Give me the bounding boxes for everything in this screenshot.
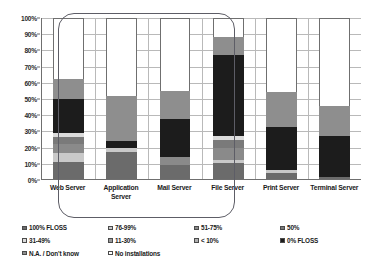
- bar-segment[interactable]: [266, 18, 297, 92]
- bar-segment[interactable]: [319, 177, 350, 179]
- y-axis-tick-mark: [37, 131, 40, 132]
- legend-swatch-icon: [108, 238, 113, 243]
- y-axis-tick-mark: [37, 66, 40, 67]
- legend-item[interactable]: N.A. / Don't know: [22, 247, 108, 259]
- bar-segment[interactable]: [319, 136, 350, 177]
- y-axis-tick-mark: [37, 115, 40, 116]
- bar-segment[interactable]: [213, 148, 244, 159]
- legend-swatch-icon: [22, 251, 27, 256]
- bar-segment[interactable]: [160, 165, 191, 179]
- x-axis: Web ServerApplication ServerMail ServerF…: [41, 182, 361, 210]
- legend-item[interactable]: No installations: [108, 247, 194, 259]
- legend-item-label: No installations: [115, 250, 160, 257]
- stacked-bar[interactable]: [319, 18, 350, 179]
- bar-segment[interactable]: [213, 140, 244, 148]
- bar-slot: [42, 18, 95, 179]
- legend-item-label: 0% FLOSS: [287, 237, 318, 244]
- legend-item-label: 51-75%: [201, 224, 222, 231]
- y-axis-tick-mark: [37, 99, 40, 100]
- legend-item-label: < 10%: [201, 237, 219, 244]
- legend-swatch-icon: [108, 251, 113, 256]
- y-axis-tick-label: 90%: [24, 31, 37, 38]
- x-axis-tick-label: Mail Server: [148, 182, 201, 210]
- x-axis-tick-label: Application Server: [94, 182, 147, 210]
- bar-segment[interactable]: [53, 153, 84, 162]
- y-axis-tick-label: 50%: [24, 96, 37, 103]
- bar-segment[interactable]: [266, 92, 297, 127]
- legend-item-label: 100% FLOSS: [29, 224, 67, 231]
- bar-segment[interactable]: [53, 162, 84, 179]
- legend-item-label: 50%: [287, 224, 299, 231]
- stacked-bar[interactable]: [160, 18, 191, 179]
- stacked-bar[interactable]: [106, 18, 137, 179]
- bar-slot: [202, 18, 255, 179]
- bar-segment[interactable]: [53, 99, 84, 134]
- bar-segment[interactable]: [106, 96, 137, 141]
- y-axis-tick-mark: [37, 50, 40, 51]
- chart-legend: 100% FLOSS76-99%51-75%50%31-49%11-30%< 1…: [22, 222, 366, 260]
- stacked-bar[interactable]: [213, 18, 244, 179]
- bar-segment[interactable]: [160, 91, 191, 118]
- bar-segment[interactable]: [53, 137, 84, 144]
- legend-swatch-icon: [22, 226, 27, 231]
- bar-segment[interactable]: [266, 127, 297, 170]
- legend-item[interactable]: 50%: [280, 222, 366, 234]
- plot-area: 0%10%20%30%40%50%60%70%80%90%100% Web Se…: [0, 0, 370, 200]
- legend-item[interactable]: < 10%: [194, 235, 280, 247]
- plot-box: [41, 18, 361, 180]
- legend-item-label: N.A. / Don't know: [29, 250, 79, 257]
- bar-segment[interactable]: [319, 106, 350, 137]
- bar-segment[interactable]: [160, 18, 191, 91]
- legend-item[interactable]: 76-99%: [108, 222, 194, 234]
- y-axis-tick-mark: [37, 180, 40, 181]
- legend-swatch-icon: [280, 226, 285, 231]
- legend-item[interactable]: 0% FLOSS: [280, 235, 366, 247]
- bar-segment[interactable]: [213, 163, 244, 179]
- y-axis-tick-mark: [37, 147, 40, 148]
- stacked-bar-chart: 0%10%20%30%40%50%60%70%80%90%100% Web Se…: [0, 0, 370, 263]
- legend-swatch-icon: [280, 238, 285, 243]
- bar-slot: [95, 18, 148, 179]
- legend-item-label: 76-99%: [115, 224, 136, 231]
- x-axis-tick-label: Print Server: [254, 182, 307, 210]
- legend-swatch-icon: [194, 238, 199, 243]
- legend-swatch-icon: [108, 226, 113, 231]
- y-axis-tick-label: 10%: [24, 160, 37, 167]
- bar-segment[interactable]: [213, 55, 244, 136]
- legend-swatch-icon: [22, 238, 27, 243]
- bar-segment[interactable]: [160, 119, 191, 158]
- y-axis-tick-label: 60%: [24, 79, 37, 86]
- legend-item-label: 31-49%: [29, 237, 50, 244]
- bar-segment[interactable]: [213, 18, 244, 37]
- legend-item[interactable]: 31-49%: [22, 235, 108, 247]
- bar-slot: [255, 18, 308, 179]
- x-axis-tick-label: Terminal Server: [308, 182, 361, 210]
- stacked-bar[interactable]: [266, 18, 297, 179]
- bar-slot: [148, 18, 201, 179]
- bar-slot: [308, 18, 361, 179]
- bar-segment[interactable]: [53, 79, 84, 98]
- y-axis-tick-mark: [37, 34, 40, 35]
- legend-swatch-icon: [194, 226, 199, 231]
- bars-layer: [42, 18, 361, 179]
- y-axis-tick-label: 0%: [28, 177, 37, 184]
- bar-segment[interactable]: [319, 18, 350, 106]
- legend-item[interactable]: 100% FLOSS: [22, 222, 108, 234]
- bar-segment[interactable]: [160, 157, 191, 164]
- legend-item[interactable]: 11-30%: [108, 235, 194, 247]
- y-axis-tick-label: 80%: [24, 47, 37, 54]
- x-axis-tick-label: Web Server: [41, 182, 94, 210]
- legend-item-label: 11-30%: [115, 237, 136, 244]
- bar-segment[interactable]: [106, 18, 137, 96]
- y-axis-tick-mark: [37, 163, 40, 164]
- y-axis-tick-label: 100%: [21, 15, 37, 22]
- bar-segment[interactable]: [213, 37, 244, 56]
- y-axis-tick-mark: [37, 82, 40, 83]
- bar-segment[interactable]: [266, 173, 297, 179]
- bar-segment[interactable]: [106, 152, 137, 179]
- y-axis-tick-label: 30%: [24, 128, 37, 135]
- bar-segment[interactable]: [53, 144, 84, 153]
- bar-segment[interactable]: [53, 18, 84, 79]
- stacked-bar[interactable]: [53, 18, 84, 179]
- legend-item[interactable]: 51-75%: [194, 222, 280, 234]
